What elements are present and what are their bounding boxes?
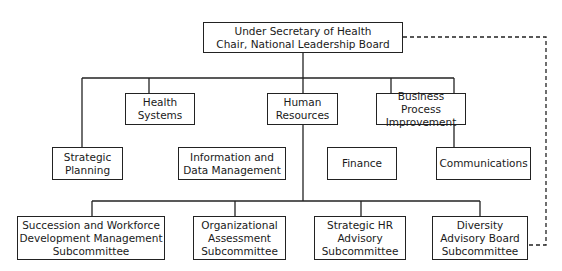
node-under-secretary: Under Secretary of Health Chair, Nationa… [203,22,403,53]
node-strategic-hr-advisory: Strategic HR Advisory Subcommittee [314,216,406,260]
node-human-resources: Human Resources [267,93,338,125]
node-succession-workforce: Succession and Workforce Development Man… [17,216,165,260]
node-strategic-planning: Strategic Planning [52,147,123,180]
node-communications: Communications [436,147,531,180]
node-organizational-assessment: Organizational Assessment Subcommittee [193,216,286,260]
dashed-connector [403,37,546,245]
node-information-data-management: Information and Data Management [178,147,286,180]
node-business-process-improvement: Business Process Improvement [376,93,466,125]
node-diversity-advisory-board: Diversity Advisory Board Subcommittee [432,216,528,260]
node-health-systems: Health Systems [125,93,195,125]
node-finance: Finance [327,147,397,180]
